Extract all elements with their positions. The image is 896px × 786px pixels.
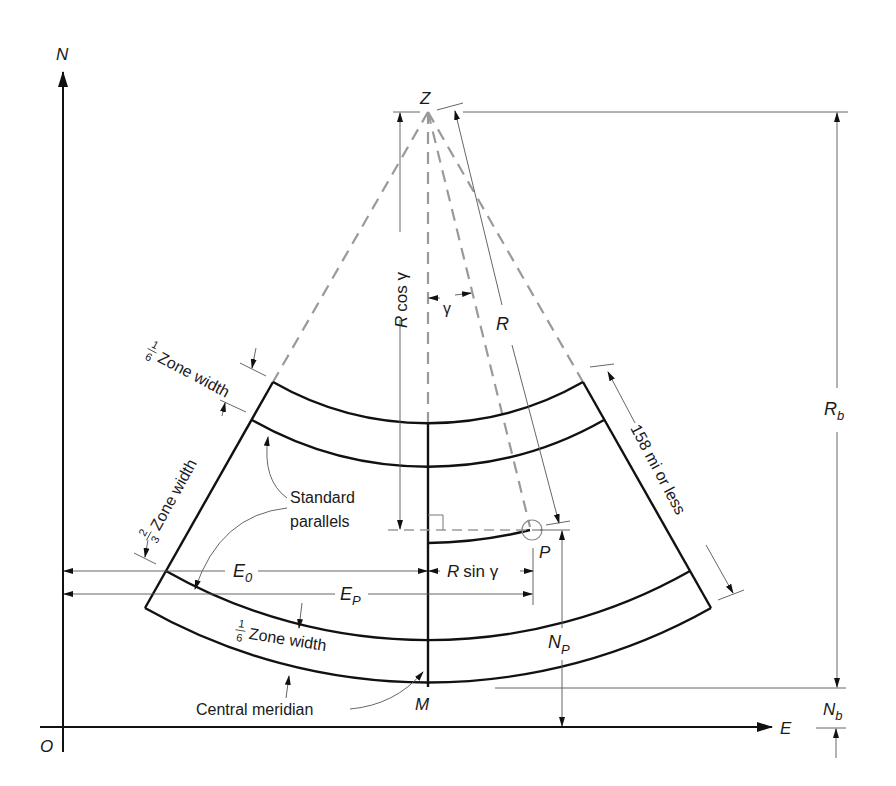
right-angle-mark (428, 515, 443, 530)
svg-text:6: 6 (143, 350, 154, 363)
svg-text:Zone width: Zone width (155, 349, 232, 401)
bottom-zone-width-label: 1 6 Zone width (233, 617, 328, 657)
north-label: N (56, 45, 69, 64)
nb-dimension (816, 728, 846, 758)
r-cos-label: Rcos γ (392, 272, 411, 328)
svg-text:1: 1 (150, 338, 161, 351)
nb-label: Nb (823, 700, 843, 723)
ep-label: EP (340, 584, 361, 608)
e0-label: E0 (233, 561, 253, 585)
top-zone-width-label: 1 6 Zone width (142, 337, 236, 403)
svg-text:2: 2 (136, 527, 149, 538)
point-p-label: P (539, 543, 551, 562)
meridian-point-label: M (415, 695, 430, 714)
svg-text:Zone width: Zone width (147, 456, 200, 533)
svg-text:3: 3 (148, 534, 161, 545)
mid-zone-width-label: 2 3 Zone width (135, 453, 202, 546)
origin-label: O (40, 737, 53, 756)
east-label: E (780, 719, 792, 738)
rb-label: Rb (824, 399, 844, 423)
r-sin-label: Rsin γ (447, 562, 499, 581)
standard-parallels-line1: Standard (290, 489, 355, 506)
svg-text:6: 6 (235, 631, 243, 644)
gamma-label: γ (443, 300, 451, 317)
mid-zone-marks (134, 540, 156, 564)
zone-length-label: 158 mi or less (627, 421, 689, 517)
radius-label: R (496, 314, 509, 334)
apex-label: Z (419, 89, 431, 108)
zone-diagram: N E O Z P M Rcos γ γ R Rb Nb NP E0 EP Rs… (0, 0, 896, 786)
bottom-zone-marks (286, 603, 302, 698)
svg-text:1: 1 (238, 617, 246, 630)
zone-sector (145, 382, 711, 687)
central-meridian-label: Central meridian (196, 701, 313, 718)
standard-parallels-line2: parallels (290, 513, 350, 530)
np-label: NP (548, 632, 570, 657)
gamma-dimension (429, 293, 471, 298)
rb-dimension (463, 112, 848, 688)
